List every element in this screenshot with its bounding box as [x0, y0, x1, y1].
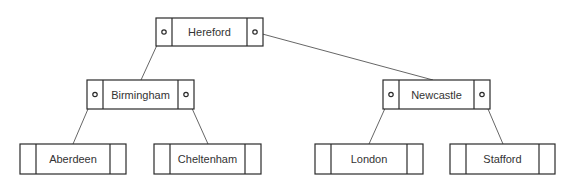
left-pointer-dot-icon — [93, 92, 97, 96]
tree-node-aberdeen: Aberdeen — [20, 144, 126, 174]
left-pointer-dot-icon — [162, 30, 166, 34]
node-label: Cheltenham — [178, 153, 237, 165]
right-pointer-dot-icon — [480, 92, 484, 96]
node-label: Newcastle — [411, 89, 462, 101]
tree-node-stafford: Stafford — [450, 144, 555, 174]
tree-node-hereford: Hereford — [156, 18, 263, 46]
node-label: Hereford — [188, 26, 231, 38]
node-label: London — [351, 153, 388, 165]
tree-node-newcastle: Newcastle — [383, 80, 490, 109]
binary-tree-diagram: HerefordBirminghamNewcastleAberdeenChelt… — [0, 0, 576, 187]
tree-node-cheltenham: Cheltenham — [154, 144, 261, 174]
tree-node-london: London — [315, 144, 423, 174]
right-pointer-dot-icon — [184, 92, 188, 96]
right-pointer-dot-icon — [253, 30, 257, 34]
edge-hereford-newcastle — [255, 32, 433, 80]
node-label: Aberdeen — [49, 153, 97, 165]
node-label: Birmingham — [111, 89, 170, 101]
node-label: Stafford — [483, 153, 521, 165]
left-pointer-dot-icon — [389, 92, 393, 96]
tree-nodes: HerefordBirminghamNewcastleAberdeenChelt… — [20, 18, 555, 174]
tree-node-birmingham: Birmingham — [87, 80, 194, 109]
